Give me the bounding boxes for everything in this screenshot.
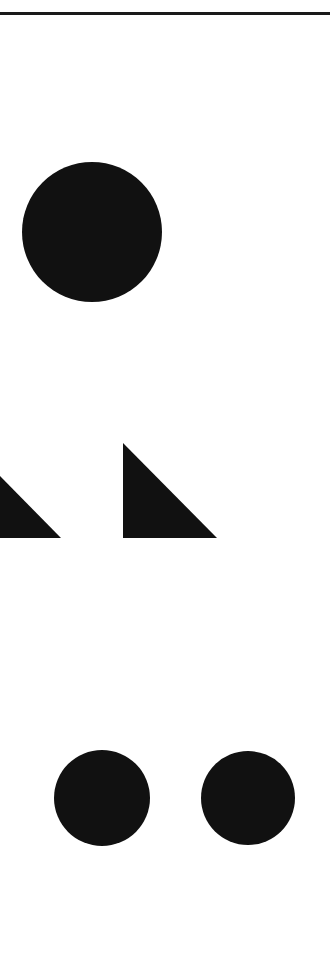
shapes-figure [0,0,330,963]
small-circle-right-shape [201,751,295,845]
large-circle-shape [22,162,162,302]
top-rule [0,12,330,15]
small-circle-left-shape [54,750,150,846]
